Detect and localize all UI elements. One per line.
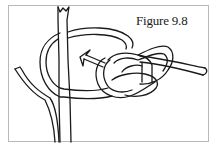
rope-loop bbox=[40, 28, 133, 98]
figure-caption: Figure 9.8 bbox=[136, 13, 187, 29]
post bbox=[58, 7, 71, 142]
branch bbox=[15, 67, 59, 142]
figure-eight-knot bbox=[96, 46, 173, 97]
direction-arrow bbox=[80, 50, 105, 67]
